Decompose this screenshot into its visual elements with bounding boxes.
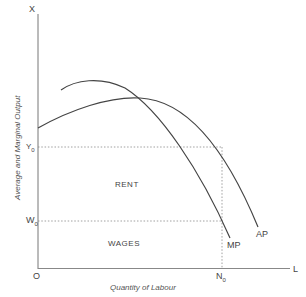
w0-label: W0 (26, 215, 38, 227)
wages-region-label: WAGES (108, 239, 140, 248)
x-axis-label: Quantity of Labour (110, 283, 176, 292)
ap-curve (38, 98, 258, 227)
x-axis-end-label: L (293, 264, 298, 274)
ap-label: AP (256, 229, 268, 239)
y0-label: Y0 (26, 142, 35, 153)
rent-region-label: RENT (115, 180, 139, 189)
y-axis-label: Average and Marginal Output (13, 96, 22, 200)
mp-label: MP (227, 240, 241, 250)
n0-label: N0 (216, 271, 226, 283)
mp-curve (61, 81, 230, 238)
origin-label: O (33, 271, 40, 281)
diagram-canvas (0, 0, 306, 297)
y-axis-end-label: X (29, 4, 35, 14)
